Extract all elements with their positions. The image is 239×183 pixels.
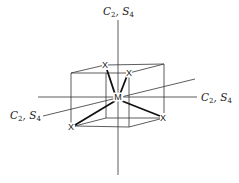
ligand-atom-bottom-left: X <box>68 123 74 132</box>
ligand-atom-top-front: X <box>126 69 132 78</box>
ligand-atom-top-back: X <box>102 61 108 70</box>
bond-4 <box>122 101 160 116</box>
label-subscript: 2 <box>111 11 115 19</box>
center-atom-m: M <box>113 93 123 102</box>
ligand-atom-bottom-right: X <box>160 114 166 123</box>
label-subscript: 2 <box>18 115 22 123</box>
label-subscript: 4 <box>129 11 133 19</box>
label-symbol: C <box>103 5 111 17</box>
bond-3 <box>75 101 115 125</box>
bond-1 <box>107 70 115 94</box>
label-subscript: 4 <box>227 97 231 105</box>
horizontal-axis-label: C2, S4 <box>201 92 232 105</box>
vertical-axis-label: C2, S4 <box>103 6 134 19</box>
label-subscript: 4 <box>36 115 40 123</box>
depth-axis-label: C2, S4 <box>10 110 41 123</box>
label-symbol: C <box>10 109 18 121</box>
label-subscript: 2 <box>209 97 213 105</box>
label-symbol: C <box>201 91 209 103</box>
